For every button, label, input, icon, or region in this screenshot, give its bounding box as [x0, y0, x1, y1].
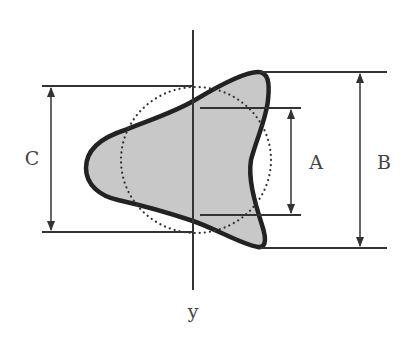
label-c: C — [25, 147, 40, 169]
label-a: A — [308, 151, 323, 173]
profile-shape — [86, 72, 269, 247]
label-b: B — [377, 151, 391, 173]
dimension-diagram: C A B y — [0, 0, 405, 347]
label-y-axis: y — [187, 300, 199, 322]
